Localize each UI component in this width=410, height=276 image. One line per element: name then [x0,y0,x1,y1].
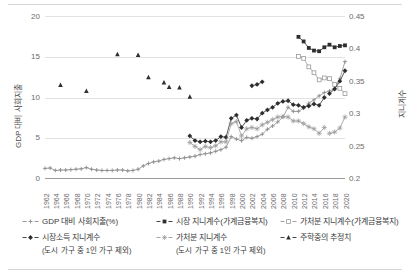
data-point-filled-square [297,35,301,39]
y-axis-right-tick-025: 0.25 [349,143,379,151]
data-point-filled-diamond [260,79,265,84]
data-point-star [342,114,347,119]
data-point-filled-diamond [249,116,254,121]
legend-item-joo-hakjung-estimate[interactable]: 주학중의 추정치 [280,231,351,242]
data-point-plus [121,168,125,172]
series-line [329,117,345,133]
x-axis-tick-1972: 1972 [94,193,101,209]
data-point-filled-diamond [203,139,208,144]
data-point-open-square [333,83,337,87]
data-point-star [239,133,244,138]
data-point-filled-triangle [177,85,182,90]
data-point-star [286,114,291,119]
x-axis-tick-1978: 1978 [125,193,132,209]
x-axis-tick-2002: 2002 [249,193,256,209]
chart-legend: GDP 대비 사회지출(%) 시장 지니계수(가계금융복지) 가처분 지니계수(… [8,215,402,265]
x-axis-tick-2016: 2016 [322,193,329,209]
data-point-filled-diamond [28,235,33,240]
data-point-plus [343,60,347,64]
data-point-plus [136,167,140,171]
data-point-star [198,147,203,152]
data-point-open-square [312,71,316,75]
data-point-filled-triangle [162,80,167,85]
legend-label: 시장 지니계수(가계금융복지) [176,217,268,226]
y-axis-right-tick-03: 0.3 [349,110,379,118]
chart-figure: 20 15 10 5 0 0.45 0.4 0.35 0.3 0.25 0.2 … [0,0,410,276]
data-point-plus [74,167,78,171]
data-point-plus [322,91,326,95]
bottom-divider [8,269,402,270]
series-line [298,37,345,51]
data-point-open-square [322,76,326,80]
data-point-plus [105,168,109,172]
legend-sublabel: (도시 가구 중 1인 가구 제외) [42,244,132,255]
data-point-open-square [343,92,347,96]
data-point-plus [296,109,300,113]
x-axis-tick-1968: 1968 [74,193,81,209]
data-point-filled-square [333,45,337,49]
data-point-plus [100,168,104,172]
legend-item-gdp-social-spending[interactable]: GDP 대비 사회지출(%) [22,215,118,226]
y-axis-left-title: GDP 대비 사회지출 [12,84,23,148]
data-point-star [306,124,311,129]
x-axis-tick-1974: 1974 [105,193,112,209]
legend-marker-filled-triangle-icon [280,233,297,241]
data-point-star [213,143,218,148]
y-axis-right-tick-045: 0.45 [349,13,379,21]
data-point-plus [224,145,228,149]
legend-item-market-gini-hfws[interactable]: 시장 지니계수(가계금융복지) [156,215,268,226]
data-point-star [208,145,213,150]
data-point-plus [126,169,130,173]
legend-sublabel: (도시 가구 중 1인 가구 제외) [176,244,266,255]
data-point-plus [59,168,63,172]
data-point-filled-diamond [322,95,327,100]
x-axis-labels: 1962196419661968197019721974197619781980… [45,181,345,211]
legend-item-disposable-gini[interactable]: 가처분 지니계수 (도시 가구 중 1인 가구 제외) [156,231,266,255]
data-point-plus [152,160,156,164]
data-point-filled-square [302,40,306,44]
data-series-layer [45,16,345,179]
data-point-filled-diamond [337,79,342,84]
data-point-plus [90,167,94,171]
x-axis-tick-2006: 2006 [270,193,277,209]
x-axis-tick-1962: 1962 [43,193,50,209]
data-point-plus [250,136,254,140]
series-- [297,35,347,53]
data-point-open-square [297,55,301,59]
legend-marker-open-square-icon [280,217,297,225]
series-gdp- [43,60,347,173]
data-point-filled-diamond [265,107,270,112]
series-- [297,55,347,96]
y-axis-left-tick-0: 0 [14,175,40,183]
plot-area [45,16,345,179]
x-axis-tick-2012: 2012 [301,193,308,209]
x-axis-tick-1966: 1966 [63,193,70,209]
data-point-star [280,114,285,119]
data-point-plus [203,152,207,156]
data-point-filled-triangle [146,75,151,80]
data-point-plus [157,159,161,163]
top-divider [8,4,402,5]
data-point-filled-triangle [115,52,120,57]
legend-marker-filled-square-icon [156,217,173,225]
x-axis-tick-1984: 1984 [156,193,163,209]
x-axis-tick-2020: 2020 [343,193,350,209]
legend-marker-plus-icon [22,217,39,225]
data-point-plus [131,168,135,172]
data-point-filled-diamond [249,83,254,88]
x-axis-tick-1982: 1982 [146,193,153,209]
x-axis-tick-1964: 1964 [53,193,60,209]
x-axis-tick-2014: 2014 [311,193,318,209]
y-axis-right-tick-04: 0.4 [349,45,379,53]
data-point-plus [110,168,114,172]
data-point-filled-diamond [281,99,286,104]
data-point-plus [141,164,145,168]
data-point-plus [198,153,202,157]
legend-item-disposable-gini-hfws[interactable]: 가처분 지니계수(가계금융복지) [280,215,399,226]
legend-item-market-income-gini[interactable]: 시장소득 지니계수 (도시 가구 중 1인 가구 제외) [22,231,132,255]
data-point-filled-square [312,49,316,53]
data-point-filled-diamond [317,103,322,108]
x-axis-tick-1998: 1998 [229,193,236,209]
data-point-filled-diamond [312,102,317,107]
x-axis-tick-1986: 1986 [167,193,174,209]
